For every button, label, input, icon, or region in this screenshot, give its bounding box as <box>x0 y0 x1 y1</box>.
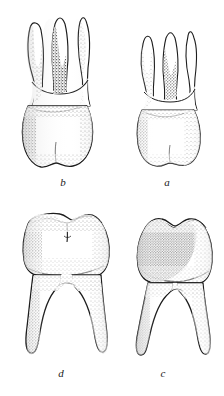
tooth-b-roots <box>8 14 108 108</box>
tooth-b-crown <box>8 102 108 174</box>
illustration-plate: b <box>0 0 224 396</box>
figure-label-d: d <box>51 368 71 379</box>
figure-label-c: c <box>153 368 173 379</box>
tooth-d-crown <box>14 210 120 280</box>
tooth-a-crown <box>122 106 212 174</box>
tooth-a-roots <box>122 24 212 112</box>
tooth-figure-c <box>124 200 222 360</box>
tooth-figure-a <box>122 24 212 174</box>
tooth-c-crown <box>124 216 222 286</box>
tooth-figure-b <box>8 14 108 174</box>
figure-label-b: b <box>53 177 73 188</box>
tooth-figure-d <box>14 196 120 362</box>
tooth-c-roots <box>124 280 222 360</box>
tooth-d-roots <box>14 272 120 362</box>
figure-label-a: a <box>157 177 177 188</box>
